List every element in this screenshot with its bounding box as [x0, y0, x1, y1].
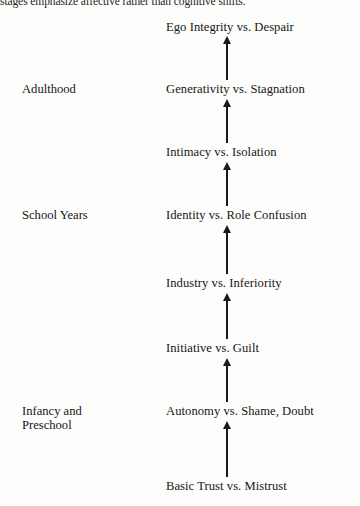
arrow-stem — [226, 167, 228, 206]
up-arrow-icon — [222, 162, 233, 206]
age-group-line-1: Infancy and — [22, 404, 82, 418]
stage-label-generativity-vs-stagnation: Generativity vs. Stagnation — [166, 82, 305, 96]
arrow-stem — [226, 41, 228, 80]
up-arrow-icon — [222, 293, 233, 339]
arrow-stem — [226, 104, 228, 143]
diagram-canvas: stages emphasize affective rather than c… — [0, 0, 360, 506]
up-arrow-icon — [222, 358, 233, 402]
up-arrow-icon — [222, 421, 233, 477]
stage-label-basic-trust-vs-mistrust: Basic Trust vs. Mistrust — [166, 479, 287, 493]
up-arrow-icon — [222, 36, 233, 80]
stage-label-autonomy-vs-shame-doubt: Autonomy vs. Shame, Doubt — [166, 404, 314, 418]
age-group-line-1: School Years — [22, 208, 88, 222]
stage-label-intimacy-vs-isolation: Intimacy vs. Isolation — [166, 145, 277, 159]
stage-label-identity-vs-role-confusion: Identity vs. Role Confusion — [166, 208, 307, 222]
caption-text: stages emphasize affective rather than c… — [0, 0, 360, 8]
age-group-line-2: Preschool — [22, 418, 82, 432]
age-group-label-infancy-and-preschool: Infancy and Preschool — [22, 404, 82, 432]
up-arrow-icon — [222, 225, 233, 274]
arrow-stem — [226, 298, 228, 339]
age-group-label-adulthood: Adulthood — [22, 82, 76, 96]
arrow-stem — [226, 426, 228, 477]
arrow-stem — [226, 363, 228, 402]
stage-label-ego-integrity-vs-despair: Ego Integrity vs. Despair — [166, 20, 294, 34]
age-group-line-1: Adulthood — [22, 82, 76, 96]
stage-label-initiative-vs-guilt: Initiative vs. Guilt — [166, 341, 259, 355]
stage-label-industry-vs-inferiority: Industry vs. Inferiority — [166, 276, 282, 290]
up-arrow-icon — [222, 99, 233, 143]
arrow-stem — [226, 230, 228, 274]
age-group-label-school-years: School Years — [22, 208, 88, 222]
